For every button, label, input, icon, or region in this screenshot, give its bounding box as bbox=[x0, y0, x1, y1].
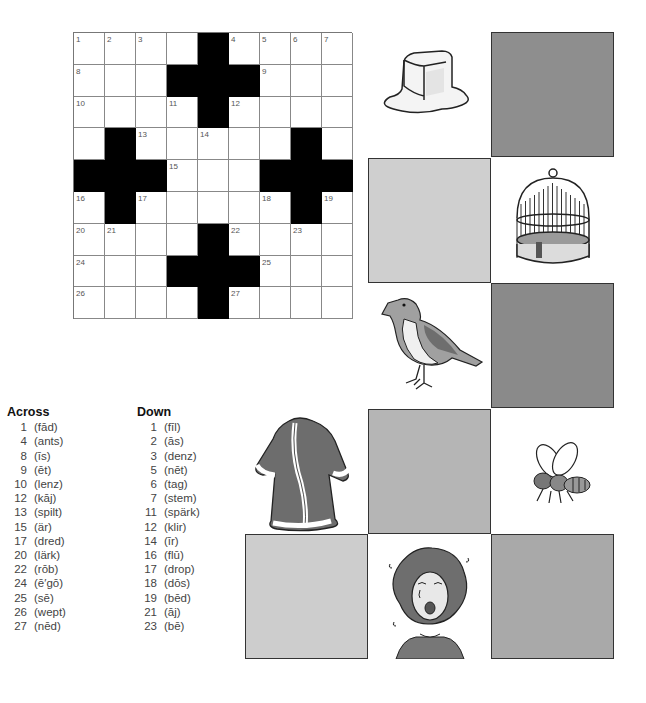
black-cell bbox=[198, 65, 229, 97]
clue-pronunciation: (tag) bbox=[164, 477, 188, 491]
answer-cell[interactable] bbox=[167, 33, 198, 65]
clue-number: 5 bbox=[137, 463, 157, 477]
answer-cell[interactable]: 2 bbox=[105, 33, 136, 65]
across-clue: 24(ē′gō) bbox=[7, 576, 66, 590]
answer-cell[interactable]: 17 bbox=[136, 192, 167, 224]
answer-cell[interactable] bbox=[105, 287, 136, 319]
answer-cell[interactable]: 8 bbox=[74, 65, 105, 97]
clue-number: 20 bbox=[7, 548, 27, 562]
picture-square bbox=[245, 409, 368, 534]
answer-cell[interactable]: 16 bbox=[74, 192, 105, 224]
clue-pronunciation: (dōs) bbox=[164, 576, 190, 590]
clue-number: 14 bbox=[200, 130, 209, 139]
answer-cell[interactable] bbox=[74, 128, 105, 160]
clue-pronunciation: (rōb) bbox=[34, 562, 58, 576]
clue-number: 16 bbox=[137, 548, 157, 562]
clue-number: 7 bbox=[137, 491, 157, 505]
down-clue: 21(āj) bbox=[137, 605, 200, 619]
clue-number: 16 bbox=[76, 194, 85, 203]
shaded-square bbox=[491, 283, 614, 408]
answer-cell[interactable]: 13 bbox=[136, 128, 167, 160]
answer-cell[interactable] bbox=[136, 224, 167, 256]
clue-pronunciation: (spilt) bbox=[34, 505, 62, 519]
black-cell bbox=[198, 224, 229, 256]
picture-board bbox=[245, 32, 614, 662]
clue-number: 15 bbox=[169, 162, 178, 171]
answer-cell[interactable] bbox=[167, 192, 198, 224]
clue-number: 27 bbox=[7, 619, 27, 633]
down-clue: 11(spärk) bbox=[137, 505, 200, 519]
clue-pronunciation: (lenz) bbox=[34, 477, 63, 491]
picture-square bbox=[491, 158, 614, 283]
answer-cell[interactable]: 21 bbox=[105, 224, 136, 256]
answer-cell[interactable]: 26 bbox=[74, 287, 105, 319]
answer-cell[interactable] bbox=[198, 192, 229, 224]
clue-pronunciation: (ēt) bbox=[34, 463, 51, 477]
across-clue: 1(fād) bbox=[7, 420, 66, 434]
clue-pronunciation: (flū) bbox=[164, 548, 184, 562]
down-clue-list: 1(fīl)2(ās)3(denz)5(nēt)6(tag)7(stem)11(… bbox=[137, 420, 200, 633]
clue-number: 20 bbox=[76, 226, 85, 235]
clue-number: 3 bbox=[137, 449, 157, 463]
clue-number: 1 bbox=[137, 420, 157, 434]
clue-number: 17 bbox=[7, 534, 27, 548]
answer-cell[interactable]: 14 bbox=[198, 128, 229, 160]
clue-number: 11 bbox=[137, 505, 157, 519]
across-clue: 12(kāj) bbox=[7, 491, 66, 505]
clue-number: 25 bbox=[7, 591, 27, 605]
down-clue: 14(īr) bbox=[137, 534, 200, 548]
answer-cell[interactable] bbox=[198, 160, 229, 192]
answer-cell[interactable] bbox=[105, 97, 136, 129]
answer-cell[interactable]: 24 bbox=[74, 256, 105, 288]
clue-number: 14 bbox=[137, 534, 157, 548]
answer-cell[interactable] bbox=[167, 224, 198, 256]
across-clue: 15(är) bbox=[7, 520, 66, 534]
clue-pronunciation: (nēt) bbox=[164, 463, 188, 477]
clue-number: 24 bbox=[76, 258, 85, 267]
picture-square bbox=[368, 283, 491, 408]
clue-number: 27 bbox=[231, 289, 240, 298]
answer-cell[interactable] bbox=[136, 65, 167, 97]
answer-cell[interactable] bbox=[105, 65, 136, 97]
answer-cell[interactable] bbox=[136, 256, 167, 288]
clue-pronunciation: (är) bbox=[34, 520, 52, 534]
answer-cell[interactable]: 3 bbox=[136, 33, 167, 65]
clue-pronunciation: (stem) bbox=[164, 491, 197, 505]
black-cell bbox=[167, 65, 198, 97]
across-clue: 26(wept) bbox=[7, 605, 66, 619]
answer-cell[interactable]: 1 bbox=[74, 33, 105, 65]
clue-number: 12 bbox=[231, 99, 240, 108]
answer-cell[interactable]: 10 bbox=[74, 97, 105, 129]
across-clue: 8(īs) bbox=[7, 449, 66, 463]
clue-number: 24 bbox=[7, 576, 27, 590]
down-clue: 23(bē) bbox=[137, 619, 200, 633]
answer-cell[interactable] bbox=[167, 128, 198, 160]
across-heading: Across bbox=[7, 405, 66, 419]
clue-pronunciation: (sē) bbox=[34, 591, 54, 605]
clue-pronunciation: (nēd) bbox=[34, 619, 61, 633]
shaded-square bbox=[368, 158, 491, 283]
clue-number: 8 bbox=[76, 67, 80, 76]
answer-cell[interactable] bbox=[105, 256, 136, 288]
clue-number: 8 bbox=[7, 449, 27, 463]
answer-cell[interactable] bbox=[167, 287, 198, 319]
crying-girl-icon bbox=[368, 534, 491, 659]
birdcage-icon bbox=[491, 158, 614, 283]
across-clues: Across 1(fād)4(ants)8(īs)9(ēt)10(lenz)12… bbox=[7, 405, 66, 633]
down-clue: 18(dōs) bbox=[137, 576, 200, 590]
clue-pronunciation: (lärk) bbox=[34, 548, 60, 562]
robe-icon bbox=[245, 409, 368, 534]
answer-cell[interactable]: 15 bbox=[167, 160, 198, 192]
answer-cell[interactable]: 11 bbox=[167, 97, 198, 129]
clue-number: 2 bbox=[137, 434, 157, 448]
across-clue: 10(lenz) bbox=[7, 477, 66, 491]
black-cell bbox=[136, 160, 167, 192]
down-clue: 16(flū) bbox=[137, 548, 200, 562]
clue-pronunciation: (drop) bbox=[164, 562, 195, 576]
across-clue: 9(ēt) bbox=[7, 463, 66, 477]
black-cell bbox=[74, 160, 105, 192]
answer-cell[interactable] bbox=[136, 97, 167, 129]
answer-cell[interactable] bbox=[136, 287, 167, 319]
black-cell bbox=[198, 33, 229, 65]
answer-cell[interactable]: 20 bbox=[74, 224, 105, 256]
